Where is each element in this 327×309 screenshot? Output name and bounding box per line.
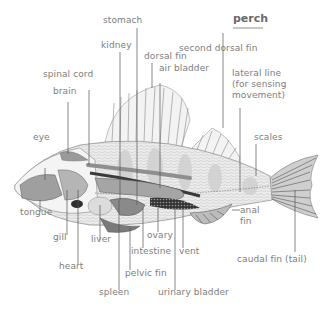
label-anal-fin-1: anal [240,205,260,215]
label-brain: brain [53,86,77,96]
label-second-dorsal-fin: second dorsal fin [179,43,258,53]
label-lateral-line-3: movement) [232,90,285,100]
label-kidney: kidney [101,40,132,50]
label-ovary: ovary [147,230,173,240]
label-spleen: spleen [99,287,129,297]
label-heart: heart [59,261,84,271]
label-stomach: stomach [103,15,142,25]
label-urinary-bladder: urinary bladder [158,287,229,297]
label-anal-fin-2: fin [240,216,252,226]
label-tongue: tongue [20,207,52,217]
label-air-bladder: air bladder [159,63,209,73]
label-scales: scales [254,132,282,142]
label-eye: eye [33,132,50,142]
label-pelvic-fin: pelvic fin [125,268,167,278]
dorsal-fin-shape [105,85,190,150]
label-intestine: intestine [131,246,171,256]
caudal-fin-shape [270,155,318,218]
perch-anatomy-diagram: perch stomach second dorsal fin kidney d… [0,0,327,309]
label-gill: gill [53,232,67,242]
diagram-title: perch [233,12,268,25]
label-lateral-line-1: lateral line [232,68,281,78]
label-caudal-fin: caudal fin (tail) [237,254,307,264]
label-lateral-line-2: (for sensing [232,79,286,89]
label-dorsal-fin: dorsal fin [144,51,187,61]
label-spinal-cord: spinal cord [43,69,93,79]
title-underline [233,27,263,29]
label-vent: vent [179,246,200,256]
label-liver: liver [91,234,111,244]
